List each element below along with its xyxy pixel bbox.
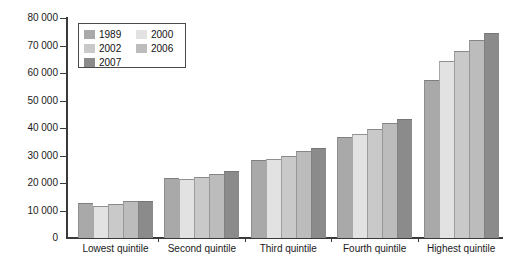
legend-label: 2007 bbox=[99, 58, 121, 68]
legend-entry: 2007 bbox=[84, 56, 121, 69]
legend-entry: 2006 bbox=[136, 42, 173, 55]
legend-label: 2002 bbox=[99, 44, 121, 54]
bar bbox=[123, 201, 138, 238]
bar bbox=[251, 160, 266, 238]
legend-swatch bbox=[136, 44, 147, 53]
x-axis-tick bbox=[331, 238, 332, 242]
legend-column-right: 20002006 bbox=[136, 28, 173, 56]
y-axis-tick-label: 50 000 bbox=[2, 96, 58, 106]
bar bbox=[93, 206, 108, 238]
bar bbox=[281, 156, 296, 238]
bar bbox=[164, 178, 179, 238]
x-axis-tick bbox=[158, 238, 159, 242]
bar bbox=[454, 51, 469, 238]
legend-label: 1989 bbox=[99, 30, 121, 40]
bar bbox=[337, 137, 352, 238]
legend-swatch bbox=[84, 58, 95, 67]
bar bbox=[296, 151, 311, 238]
bar-chart: 80 00070 00060 00050 00040 00030 00020 0… bbox=[0, 0, 513, 263]
bar bbox=[78, 203, 93, 238]
legend-label: 2006 bbox=[151, 44, 173, 54]
y-axis-tick-label: 30 000 bbox=[2, 151, 58, 161]
bar bbox=[424, 80, 439, 238]
x-axis-tick bbox=[245, 238, 246, 242]
bar bbox=[439, 61, 454, 238]
bar bbox=[382, 123, 397, 239]
legend-column-left: 198920022007 bbox=[84, 28, 121, 70]
y-axis-tick-label: 0 bbox=[2, 233, 58, 243]
bar bbox=[397, 119, 412, 238]
y-axis-tick-label: 40 000 bbox=[2, 123, 58, 133]
legend-swatch bbox=[84, 30, 95, 39]
bar bbox=[179, 179, 194, 238]
legend-label: 2000 bbox=[151, 30, 173, 40]
bar bbox=[266, 159, 281, 238]
legend-entry: 1989 bbox=[84, 28, 121, 41]
bar bbox=[224, 171, 239, 238]
bar-group bbox=[337, 18, 412, 238]
bar bbox=[469, 40, 484, 238]
y-axis-tick-label: 60 000 bbox=[2, 68, 58, 78]
legend-swatch bbox=[136, 30, 147, 39]
x-axis-tick bbox=[418, 238, 419, 242]
bar bbox=[138, 201, 153, 238]
bar bbox=[311, 148, 326, 238]
bar bbox=[194, 177, 209, 238]
y-axis-tick-label: 20 000 bbox=[2, 178, 58, 188]
bar bbox=[484, 33, 499, 238]
bar-group bbox=[424, 18, 499, 238]
bar bbox=[108, 204, 123, 238]
x-axis-category-label: Highest quintile bbox=[401, 243, 513, 255]
legend-swatch bbox=[84, 44, 95, 53]
y-axis-tick-label: 70 000 bbox=[2, 41, 58, 51]
y-axis-labels: 80 00070 00060 00050 00040 00030 00020 0… bbox=[0, 0, 58, 263]
y-axis-tick-label: 10 000 bbox=[2, 206, 58, 216]
y-axis-tick-label: 80 000 bbox=[2, 13, 58, 23]
legend-entry: 2000 bbox=[136, 28, 173, 41]
bar bbox=[209, 174, 224, 238]
bar-group bbox=[251, 18, 326, 238]
bar bbox=[352, 134, 367, 238]
bar bbox=[367, 129, 382, 238]
chart-legend: 198920022007 20002006 bbox=[78, 23, 186, 68]
legend-entry: 2002 bbox=[84, 42, 121, 55]
